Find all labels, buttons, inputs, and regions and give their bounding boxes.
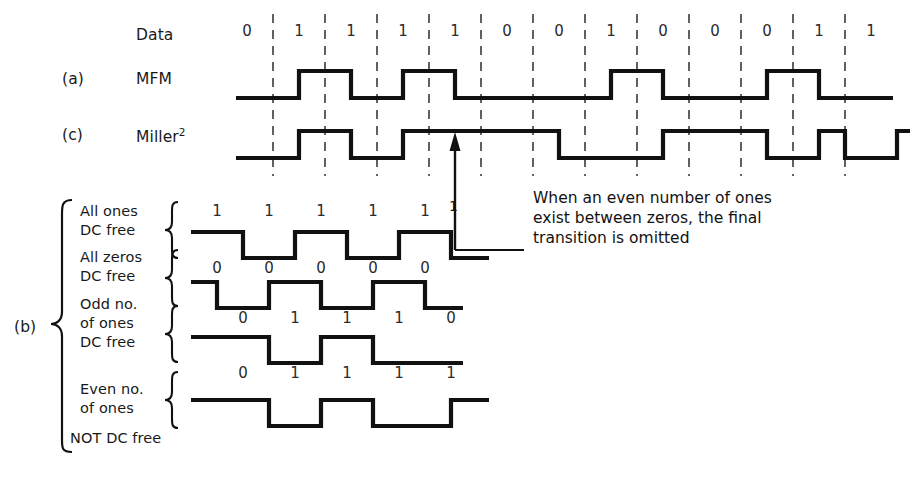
figure-canvas: Data (a) MFM (c) Miller2 (b) All ones DC… — [0, 0, 921, 483]
waveform-svg — [0, 0, 921, 483]
subwaveform-all-ones — [191, 232, 489, 258]
subwaveform-all-zeros — [191, 282, 463, 308]
brace-even — [165, 372, 178, 428]
subrow-braces — [165, 202, 178, 428]
mfm-waveform — [236, 71, 893, 98]
miller-squared-waveform — [236, 131, 910, 158]
subwaveform-even-ones — [191, 400, 489, 426]
brace-odd — [165, 306, 178, 362]
subwaveform-odd-ones — [191, 337, 463, 363]
section-b-brace — [51, 200, 72, 452]
